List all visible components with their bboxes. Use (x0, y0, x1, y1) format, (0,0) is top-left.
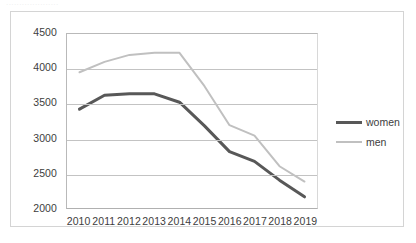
gridline-4000 (67, 69, 317, 70)
plot-area (66, 33, 318, 209)
y-tick-label-2000: 2000 (11, 203, 57, 214)
y-tick-label-3000: 3000 (11, 133, 57, 144)
cut-off-header-text: ···················· (6, 1, 156, 9)
legend-label-men: men (366, 136, 386, 148)
legend-swatch-men (336, 141, 362, 143)
y-tick-label-2500: 2500 (11, 168, 57, 179)
series-line-women (80, 94, 305, 197)
legend-item-men[interactable]: men (336, 132, 412, 152)
y-tick-label-4500: 4500 (11, 27, 57, 38)
y-tick-label-4000: 4000 (11, 62, 57, 73)
legend-swatch-women (336, 121, 362, 124)
chart-container: 200025003000350040004500 201020112012201… (10, 11, 404, 227)
chart-page: ···················· 2000250030003500400… (0, 0, 416, 243)
plot-lines (67, 34, 317, 208)
chart-legend: womenmen (336, 112, 412, 152)
gridline-3500 (67, 104, 317, 105)
x-tick-label-2019: 2019 (288, 215, 322, 227)
y-tick-label-3500: 3500 (11, 97, 57, 108)
gridline-3000 (67, 140, 317, 141)
legend-item-women[interactable]: women (336, 112, 412, 132)
series-line-men (80, 53, 305, 182)
legend-label-women: women (366, 116, 400, 128)
gridline-2500 (67, 175, 317, 176)
